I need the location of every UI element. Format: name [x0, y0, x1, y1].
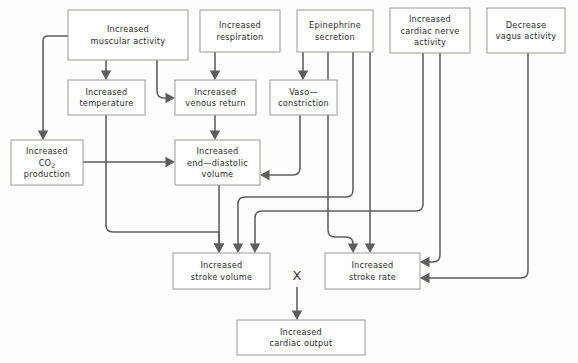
edge-vaso-to-edv-line: [269, 115, 300, 175]
edge-epinephrine-to-stroke-rate-arrowhead: [365, 244, 375, 254]
edge-cardiac-nerve-to-stroke-volume-arrowhead: [250, 244, 260, 254]
edge-muscular-to-venous-line: [157, 60, 166, 98]
edge-muscular-to-co2-arrowhead: [38, 131, 48, 141]
edge-cardiac-nerve-to-stroke-rate-line: [429, 53, 440, 262]
edge-edv-to-stroke-volume: [214, 185, 224, 253]
edge-vaso-to-edv-arrowhead: [260, 170, 270, 180]
increased-temperature-label-line-0: Increased: [85, 87, 127, 97]
increased-temperature-label-line-1: temperature: [79, 98, 133, 108]
edge-operator-to-cardiac-output: [292, 287, 302, 320]
flowchart-canvas: Increasedmuscular activityIncreasedrespi…: [0, 0, 578, 363]
edge-vagus-to-stroke-rate-arrowhead: [420, 273, 430, 283]
node-decrease-vagus-activity[interactable]: Decreasevagus activity: [487, 8, 565, 53]
increased-cardiac-nerve-activity-label-line-0: Increased: [409, 14, 451, 24]
flowchart-svg: Increasedmuscular activityIncreasedrespi…: [0, 0, 578, 363]
vasoconstriction-label-line-1: constriction: [278, 98, 329, 108]
edge-vaso-to-edv: [260, 115, 300, 180]
node-increased-cardiac-output[interactable]: Increasedcardiac output: [237, 320, 365, 355]
decrease-vagus-activity-label-line-1: vagus activity: [496, 31, 557, 41]
edge-epinephrine-to-stroke-volume-arrowhead: [233, 244, 243, 254]
increased-cardiac-output-label-line-0: Increased: [280, 327, 322, 337]
node-vasoconstriction[interactable]: Vaso—constriction: [270, 80, 337, 115]
node-increased-end-diastolic-volume[interactable]: Increasedend—diastolicvolume: [175, 140, 260, 185]
increased-end-diastolic-volume-label-line-1: end—diastolic: [187, 158, 248, 168]
node-increased-muscular-activity[interactable]: Increasedmuscular activity: [68, 10, 188, 60]
edge-muscular-to-temperature-arrowhead: [101, 71, 111, 81]
increased-cardiac-output-label-line-1: cardiac output: [270, 338, 333, 348]
node-increased-cardiac-nerve-activity[interactable]: Increasedcardiac nerveactivity: [390, 8, 470, 53]
increased-venous-return-label-line-0: Increased: [194, 87, 236, 97]
edge-epinephrine-to-vaso: [298, 52, 308, 80]
multiplication-operator: X: [293, 268, 302, 283]
edge-respiration-to-venous: [210, 52, 220, 80]
decrease-vagus-activity-label-line-0: Decrease: [506, 20, 546, 30]
increased-venous-return-label-line-1: venous return: [185, 98, 245, 108]
nodes-layer: Increasedmuscular activityIncreasedrespi…: [11, 8, 565, 355]
increased-respiration-label-line-0: Increased: [219, 20, 261, 30]
increased-respiration-label-line-1: respiration: [217, 32, 264, 42]
increased-stroke-volume-label-line-1: stroke volume: [191, 272, 252, 282]
increased-muscular-activity-label-line-1: muscular activity: [91, 36, 166, 46]
epinephrine-secretion-label-line-1: secretion: [315, 32, 355, 42]
increased-end-diastolic-volume-label-line-2: volume: [202, 169, 234, 179]
edge-epinephrine-to-vaso-arrowhead: [298, 71, 308, 81]
increased-stroke-rate-label-line-0: Increased: [351, 260, 393, 270]
edge-venous-to-edv: [210, 115, 220, 140]
edge-muscular-to-co2-line: [43, 36, 68, 131]
increased-stroke-rate-label-line-1: stroke rate: [349, 272, 396, 282]
edge-edv-to-stroke-volume-arrowhead: [214, 244, 224, 254]
edge-cardiac-nerve-to-stroke-rate-arrowhead: [420, 257, 430, 267]
edge-vagus-to-stroke-rate-line: [429, 53, 528, 278]
node-increased-stroke-volume[interactable]: Increasedstroke volume: [173, 253, 270, 289]
operator-layer: X: [293, 268, 302, 283]
node-increased-temperature[interactable]: Increasedtemperature: [68, 80, 145, 115]
increased-stroke-volume-label-line-0: Increased: [200, 260, 242, 270]
edge-muscular-to-co2: [38, 36, 68, 140]
edge-venous-to-edv-arrowhead: [210, 131, 220, 141]
edge-muscular-to-venous-arrowhead: [166, 93, 176, 103]
edge-co2-to-edv-arrowhead: [166, 157, 176, 167]
edge-respiration-to-venous-arrowhead: [210, 71, 220, 81]
edge-operator-to-cardiac-output-arrowhead: [292, 311, 302, 321]
vasoconstriction-label-line-0: Vaso—: [289, 87, 318, 97]
node-increased-stroke-rate[interactable]: Increasedstroke rate: [325, 253, 420, 289]
edge-vaso-line-to-stroke-rate-arrowhead: [348, 244, 358, 254]
increased-end-diastolic-volume-label-line-0: Increased: [196, 146, 238, 156]
increased-cardiac-nerve-activity-label-line-1: cardiac nerve: [400, 26, 459, 36]
edge-muscular-to-venous: [157, 60, 175, 103]
node-increased-co2-production[interactable]: IncreasedCO2production: [11, 140, 83, 185]
edge-co2-to-edv: [83, 157, 175, 167]
node-increased-venous-return[interactable]: Increasedvenous return: [175, 80, 256, 115]
increased-co2-production-label-line-2: production: [24, 169, 70, 179]
epinephrine-secretion-label-line-0: Epinephrine: [309, 20, 361, 30]
increased-muscular-activity-label-line-0: Increased: [107, 24, 149, 34]
node-increased-respiration[interactable]: Increasedrespiration: [200, 10, 280, 52]
node-epinephrine-secretion[interactable]: Epinephrinesecretion: [297, 10, 373, 52]
edge-epinephrine-to-stroke-rate: [365, 52, 375, 253]
edge-muscular-to-temperature: [101, 60, 111, 80]
edges-layer: [38, 36, 528, 320]
edge-vagus-to-stroke-rate: [420, 53, 528, 283]
increased-co2-production-label-line-0: Increased: [26, 146, 68, 156]
increased-cardiac-nerve-activity-label-line-2: activity: [414, 37, 446, 47]
